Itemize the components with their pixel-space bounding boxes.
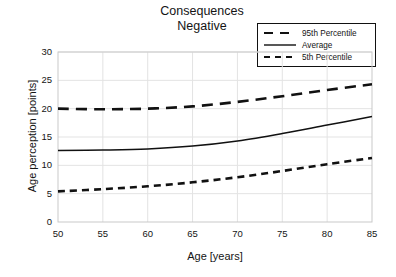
series-line: [58, 158, 372, 191]
gridlines: [58, 52, 372, 222]
series-line: [58, 84, 372, 109]
series-line: [58, 117, 372, 151]
data-series: [58, 84, 372, 191]
plot-area: [0, 0, 396, 277]
chart-figure: Consequences Negative 95th Percentile Av…: [0, 0, 396, 277]
